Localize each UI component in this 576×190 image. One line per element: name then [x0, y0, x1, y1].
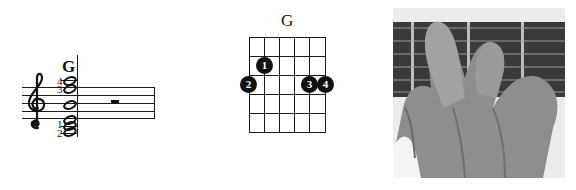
finger-dot: 4	[317, 76, 334, 93]
hand-photo-illustration	[393, 8, 565, 178]
fret-line	[249, 37, 326, 38]
fingering-number: 3	[57, 84, 63, 95]
fret-line	[249, 75, 326, 76]
half-rest-icon	[111, 100, 119, 103]
chord-diagram-title: G	[281, 12, 293, 29]
chord-name: G	[62, 58, 75, 75]
fingering-number: 2	[57, 128, 63, 139]
string-line	[264, 37, 265, 133]
finger-dot: 2	[240, 76, 257, 93]
string-line	[279, 37, 280, 133]
fret-line	[249, 113, 326, 114]
chord-notes	[60, 74, 80, 140]
hand-chord-photo	[393, 8, 565, 178]
finger-dot: 3	[301, 76, 318, 93]
finger-dot: 1	[256, 57, 273, 74]
string-line	[294, 37, 295, 133]
end-barline	[154, 87, 155, 119]
treble-clef-icon	[26, 72, 48, 130]
fret-line	[249, 132, 326, 133]
fret-line	[249, 94, 326, 95]
